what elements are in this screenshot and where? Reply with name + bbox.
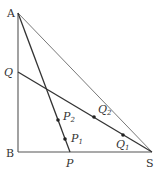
point-P2-dot bbox=[56, 118, 60, 122]
segment-QS bbox=[18, 72, 152, 152]
label-Q: Q bbox=[4, 66, 13, 79]
label-A: A bbox=[6, 7, 16, 20]
point-P1-dot bbox=[63, 137, 67, 141]
label-Q2: Q2 bbox=[98, 103, 112, 117]
segment-AS bbox=[18, 13, 152, 152]
label-P2: P2 bbox=[62, 110, 75, 124]
segment-AP bbox=[18, 13, 70, 152]
label-P: P bbox=[65, 157, 74, 170]
point-Q2-dot bbox=[92, 115, 96, 119]
geometry-diagram: A B S P Q P1 P2 Q1 Q2 bbox=[0, 0, 157, 173]
label-Q1: Q1 bbox=[116, 138, 130, 152]
label-B: B bbox=[6, 147, 14, 160]
point-Q1-dot bbox=[121, 133, 125, 137]
label-S: S bbox=[146, 157, 154, 170]
label-P1: P1 bbox=[70, 132, 83, 146]
